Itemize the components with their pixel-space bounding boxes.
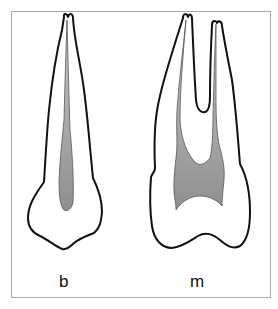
tooth-m xyxy=(150,14,250,248)
label-m: m xyxy=(190,272,204,292)
teeth-diagram xyxy=(0,0,278,309)
label-b: b xyxy=(59,272,68,292)
tooth-b xyxy=(28,14,102,249)
tooth-m-outline xyxy=(150,14,250,248)
